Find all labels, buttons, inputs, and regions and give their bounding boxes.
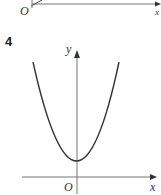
origin-label: O <box>64 180 73 195</box>
parabola-graph <box>22 50 157 194</box>
prev-ray <box>31 0 42 6</box>
y-axis-label: y <box>66 42 71 57</box>
parabola-curve <box>33 62 119 161</box>
prev-x-arrow-icon <box>155 2 161 7</box>
question-number: 4 <box>5 34 12 49</box>
x-axis-label: x <box>150 180 155 195</box>
figure-canvas <box>0 0 161 195</box>
y-arrow-icon <box>74 50 80 58</box>
previous-figure <box>31 0 161 8</box>
prev-origin-label: O <box>20 4 29 19</box>
prev-x-label: x <box>155 7 159 17</box>
